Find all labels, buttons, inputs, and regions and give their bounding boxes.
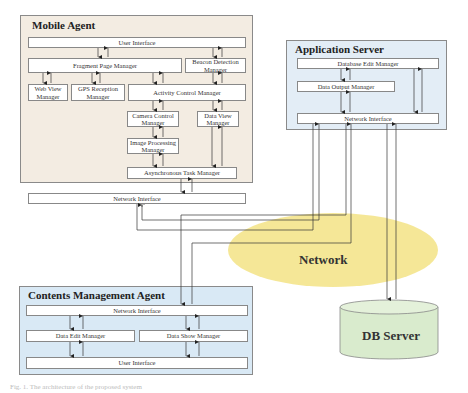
figure-caption: Fig. 1. The architecture of the proposed… xyxy=(10,383,142,391)
connector-arrows xyxy=(0,0,468,393)
